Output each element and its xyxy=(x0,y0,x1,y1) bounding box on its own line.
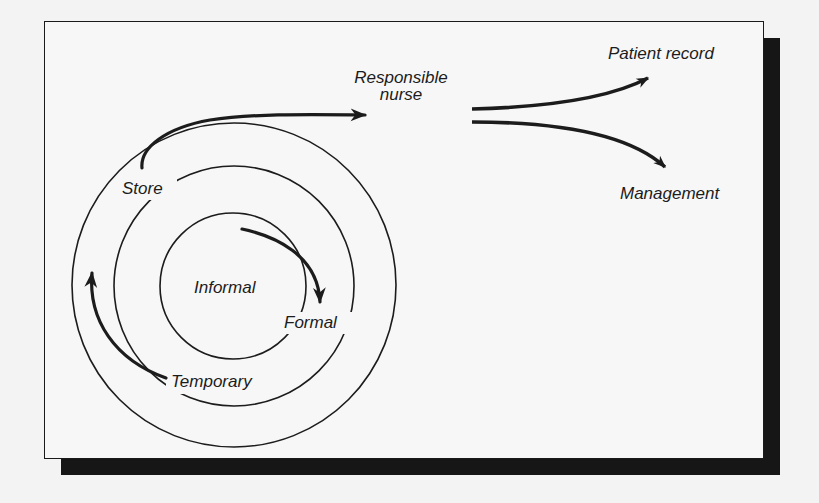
label-formal: Formal xyxy=(284,314,337,331)
label-store: Store xyxy=(122,180,163,197)
label-informal: Informal xyxy=(194,279,255,296)
arrow-store-to-nurse xyxy=(142,115,365,168)
label-responsible-nurse-line2: nurse xyxy=(338,86,464,103)
label-management: Management xyxy=(620,185,719,202)
arrow-nurse-to-management xyxy=(472,122,665,167)
label-patient-record: Patient record xyxy=(608,45,714,62)
label-responsible-nurse-line1: Responsible xyxy=(338,69,464,86)
label-temporary: Temporary xyxy=(171,373,252,390)
arrow-nurse-to-patient-record xyxy=(472,78,648,109)
arrow-temporary-to-store xyxy=(92,273,166,378)
